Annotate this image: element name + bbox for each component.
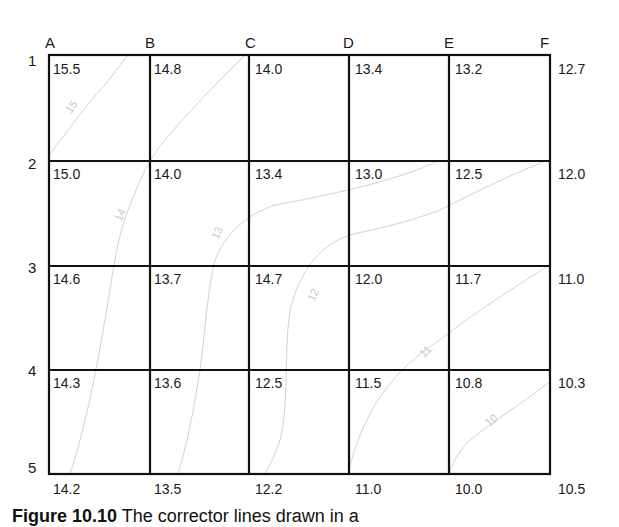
grid-value-f5: 10.5 [558, 481, 585, 497]
row-label-5: 5 [28, 459, 36, 476]
grid-value-a1: 15.5 [53, 61, 80, 77]
figure-caption-text: The corrector lines drawn in a [117, 506, 359, 526]
grid-value-a5: 14.2 [53, 481, 80, 497]
grid-value-c5: 12.2 [255, 481, 282, 497]
contour-line-12 [265, 160, 548, 474]
row-label-3: 3 [28, 259, 36, 276]
grid-value-f2: 12.0 [558, 166, 585, 182]
grid-value-a4: 14.3 [53, 375, 80, 391]
grid-value-f4: 10.3 [558, 375, 585, 391]
contour-label-11: 11 [417, 343, 434, 360]
figure-caption: Figure 10.10 The corrector lines drawn i… [12, 506, 359, 527]
grid-value-b3: 13.7 [154, 271, 181, 287]
grid-value-b2: 14.0 [154, 166, 181, 182]
grid-value-e2: 12.5 [455, 166, 482, 182]
grid-value-b5: 13.5 [154, 481, 181, 497]
column-label-d: D [343, 34, 354, 51]
contour-label-14: 14 [112, 207, 128, 223]
column-label-a: A [45, 34, 55, 51]
contour-line-13 [178, 160, 440, 474]
grid-value-d4: 11.5 [355, 375, 381, 391]
grid-value-c3: 14.7 [255, 271, 282, 287]
grid-value-d2: 13.0 [355, 166, 382, 182]
grid-value-d1: 13.4 [355, 61, 382, 77]
column-label-c: C [245, 34, 256, 51]
column-label-f: F [540, 34, 549, 51]
contour-label-13: 13 [209, 225, 225, 241]
grid-value-a2: 15.0 [53, 166, 80, 182]
grid-value-d3: 12.0 [355, 271, 382, 287]
grid-value-b1: 14.8 [154, 61, 181, 77]
grid-value-b4: 13.6 [154, 375, 181, 391]
grid-value-c1: 14.0 [255, 61, 282, 77]
grid-value-e5: 10.0 [455, 481, 482, 497]
contour-line-10 [449, 383, 548, 474]
row-label-2: 2 [28, 155, 36, 172]
grid-value-f3: 11.0 [558, 271, 584, 287]
row-label-1: 1 [28, 52, 36, 69]
contour-label-10: 10 [483, 411, 500, 428]
grid-value-e4: 10.8 [455, 375, 482, 391]
figure-caption-number: Figure 10.10 [12, 506, 117, 526]
grid-value-f1: 12.7 [558, 61, 585, 77]
contour-line-14 [70, 55, 245, 474]
contour-label-15: 15 [63, 98, 80, 115]
grid-value-e1: 13.2 [455, 61, 482, 77]
column-label-e: E [444, 34, 454, 51]
grid-value-e3: 11.7 [455, 271, 481, 287]
grid-border [49, 55, 550, 474]
grid-value-c2: 13.4 [255, 166, 282, 182]
row-label-4: 4 [28, 362, 36, 379]
grid-value-c4: 12.5 [255, 375, 282, 391]
grid-value-a3: 14.6 [53, 271, 80, 287]
grid-value-d5: 11.0 [355, 481, 381, 497]
contour-label-12: 12 [305, 287, 321, 303]
column-label-b: B [145, 34, 155, 51]
